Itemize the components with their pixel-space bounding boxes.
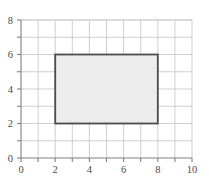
coordinate-grid-plot: 0 2 4 6 8 10 0 2 4 6 8 (0, 0, 209, 180)
x-tick-label-0: 0 (18, 164, 23, 175)
y-tick-label-0: 0 (8, 153, 13, 164)
x-tick-label-10: 10 (187, 164, 198, 175)
x-tick-label-6: 6 (121, 164, 126, 175)
chart-figure: 0 2 4 6 8 10 0 2 4 6 8 (0, 0, 209, 180)
x-tick-label-2: 2 (53, 164, 58, 175)
shaded-rectangle (55, 55, 158, 124)
x-tick-label-4: 4 (87, 164, 93, 175)
y-tick-label-4: 4 (8, 84, 14, 95)
y-tick-label-8: 8 (8, 15, 13, 26)
y-tick-label-6: 6 (8, 49, 13, 60)
y-tick-label-2: 2 (8, 118, 13, 129)
x-tick-label-8: 8 (155, 164, 160, 175)
